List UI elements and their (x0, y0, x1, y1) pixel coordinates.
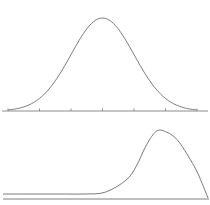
top-chart: Normal distribution (0, 0, 208, 111)
bottom-chart: Skewed distribution (0, 119, 209, 199)
skewed-curve (3, 130, 208, 198)
chart-canvas: Normal distribution Skewed distribution (0, 0, 210, 205)
top-chart-label: Normal distribution (0, 0, 10, 2)
normal-curve (8, 18, 197, 110)
bottom-chart-label: Skewed distribution (0, 119, 10, 121)
